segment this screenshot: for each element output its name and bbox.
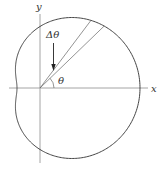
delta-theta-label: Δθ bbox=[45, 29, 59, 40]
y-axis-label: y bbox=[35, 1, 42, 12]
theta-label: θ bbox=[58, 75, 64, 86]
x-axis-label: x bbox=[151, 83, 157, 94]
polar-diagram: y x Δθ θ bbox=[0, 0, 165, 169]
theta-angle-arc bbox=[50, 78, 54, 88]
